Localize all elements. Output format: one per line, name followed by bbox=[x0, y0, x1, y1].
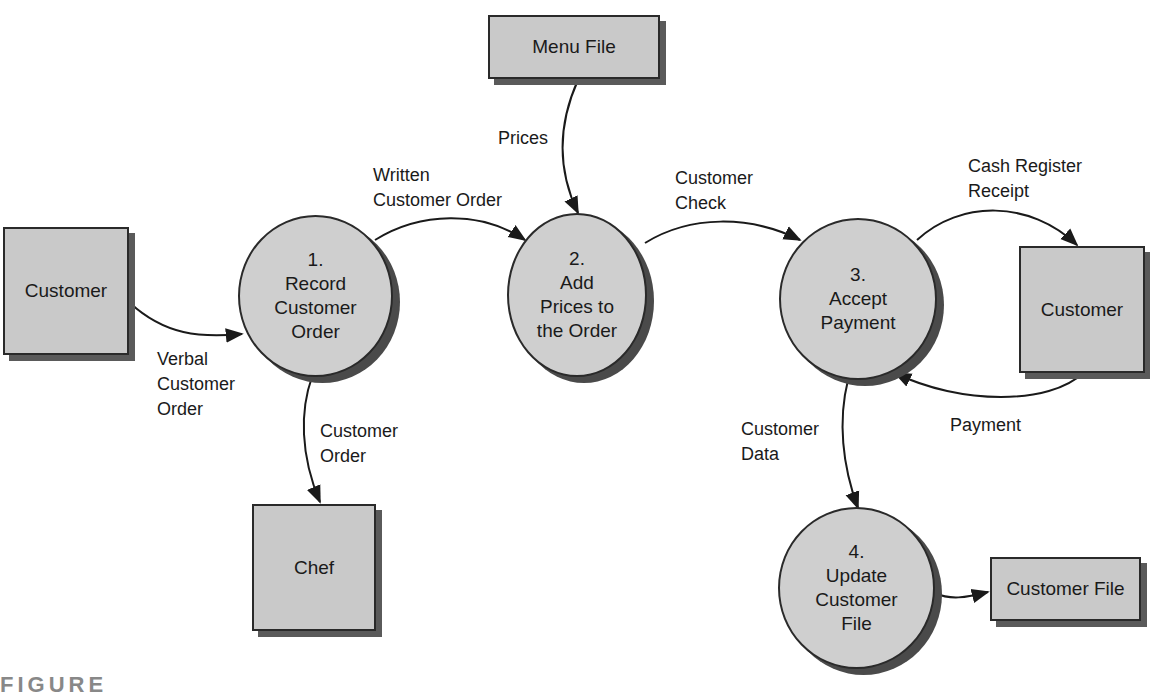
process-number: 1. bbox=[308, 248, 324, 272]
process-record-customer-order: 1. Record Customer Order bbox=[238, 215, 393, 377]
label-customer-order-chef: Customer Order bbox=[320, 419, 398, 469]
flow-written-customer-order bbox=[375, 218, 525, 240]
label-customer-check: Customer Check bbox=[675, 166, 753, 216]
entity-customer-right: Customer bbox=[1019, 246, 1145, 373]
figure-caption: FIGURE bbox=[0, 672, 107, 696]
process-line: Customer bbox=[815, 588, 897, 612]
process-accept-payment: 3. Accept Payment bbox=[779, 218, 937, 380]
process-line: Update bbox=[826, 564, 887, 588]
entity-menu-file: Menu File bbox=[488, 15, 660, 79]
process-line: Order bbox=[291, 320, 340, 344]
entity-label: Menu File bbox=[532, 36, 615, 58]
flow-customer-order-chef bbox=[304, 377, 320, 502]
flow-verbal-customer-order bbox=[130, 303, 242, 335]
process-number: 3. bbox=[850, 263, 866, 287]
process-line: Record bbox=[285, 272, 346, 296]
label-written-customer-order: Written Customer Order bbox=[373, 163, 502, 213]
process-add-prices: 2. Add Prices to the Order bbox=[507, 213, 647, 377]
label-prices: Prices bbox=[498, 126, 548, 151]
entity-label: Customer bbox=[25, 280, 107, 302]
process-update-customer-file: 4. Update Customer File bbox=[778, 507, 935, 669]
process-line: Add bbox=[560, 271, 594, 295]
process-line: Customer bbox=[274, 296, 356, 320]
label-payment: Payment bbox=[950, 413, 1021, 438]
process-number: 2. bbox=[569, 247, 585, 271]
label-verbal-customer-order: Verbal Customer Order bbox=[157, 347, 235, 422]
entity-customer-left: Customer bbox=[3, 227, 129, 355]
process-number: 4. bbox=[849, 540, 865, 564]
flow-cash-register-receipt bbox=[917, 211, 1077, 245]
flow-prices bbox=[563, 80, 578, 213]
process-line: File bbox=[841, 612, 872, 636]
process-line: Accept bbox=[829, 287, 887, 311]
process-line: Payment bbox=[821, 311, 896, 335]
process-line: the Order bbox=[537, 319, 617, 343]
entity-label: Customer File bbox=[1006, 578, 1124, 600]
flow-payment bbox=[895, 373, 1083, 397]
entity-customer-file: Customer File bbox=[990, 557, 1141, 621]
label-cash-register-receipt: Cash Register Receipt bbox=[968, 154, 1082, 204]
flow-customer-data bbox=[843, 380, 858, 508]
flow-customer-check bbox=[645, 222, 800, 243]
label-customer-data: Customer Data bbox=[741, 417, 819, 467]
entity-label: Customer bbox=[1041, 299, 1123, 321]
entity-chef: Chef bbox=[252, 504, 376, 631]
flow-update-customer-file bbox=[935, 592, 988, 597]
process-line: Prices to bbox=[540, 295, 614, 319]
entity-label: Chef bbox=[294, 557, 334, 579]
